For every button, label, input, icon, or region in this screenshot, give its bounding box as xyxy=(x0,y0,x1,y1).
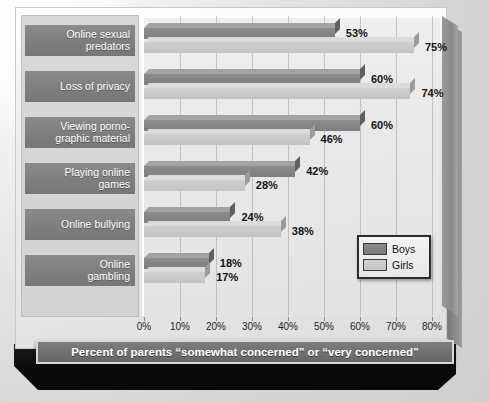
plot-top-highlight xyxy=(144,16,442,18)
bar-girls xyxy=(144,226,281,237)
bar-girls xyxy=(144,88,410,99)
bar-side-face xyxy=(360,64,365,80)
chart-legend: Boys Girls xyxy=(357,235,431,279)
x-axis-tick-label: 60% xyxy=(350,321,370,332)
chart-screenshot: Online sexualpredatorsLoss of privacyVie… xyxy=(0,0,489,402)
x-axis-tick-label: 0% xyxy=(137,321,151,332)
legend-entry-girls: Girls xyxy=(363,257,425,273)
chart-board: Online sexualpredatorsLoss of privacyVie… xyxy=(16,8,446,348)
category-label-viewing-pornographic-material: Viewing porno-graphic material xyxy=(25,117,135,148)
bar-side-face xyxy=(281,216,286,232)
bar-value-label: 17% xyxy=(216,271,238,283)
bar-front-face xyxy=(144,180,245,191)
x-axis-tick-label: 50% xyxy=(314,321,334,332)
bar-side-face xyxy=(335,18,340,34)
bar-value-label: 38% xyxy=(292,225,314,237)
x-axis-tick-label: 80% xyxy=(422,321,442,332)
x-axis: 0%10%20%30%40%50%60%70%80% xyxy=(142,317,454,333)
x-axis-tick-label: 30% xyxy=(242,321,262,332)
bar-side-face xyxy=(295,156,300,172)
bar-girls xyxy=(144,134,310,145)
bar-value-label: 75% xyxy=(425,41,447,53)
bar-side-face xyxy=(205,262,210,278)
category-label-playing-online-games: Playing onlinegames xyxy=(25,163,135,194)
category-label-column: Online sexualpredatorsLoss of privacyVie… xyxy=(22,16,138,316)
bar-front-face xyxy=(144,134,310,145)
bar-girls xyxy=(144,272,205,283)
category-label-online-gambling: Onlinegambling xyxy=(25,255,135,286)
bar-value-label: 42% xyxy=(306,165,328,177)
category-label-loss-of-privacy: Loss of privacy xyxy=(25,71,135,102)
bar-front-face xyxy=(144,88,410,99)
bar-front-face xyxy=(144,42,414,53)
bar-side-face xyxy=(414,32,419,48)
legend-entry-boys: Boys xyxy=(363,241,425,257)
category-label-online-bullying: Online bullying xyxy=(25,209,135,240)
bar-side-face xyxy=(230,202,235,218)
bar-side-face xyxy=(360,110,365,126)
bar-value-label: 74% xyxy=(421,87,443,99)
gridline xyxy=(432,16,433,316)
x-axis-tick-label: 70% xyxy=(386,321,406,332)
bar-girls xyxy=(144,42,414,53)
plot-back-wall-3d xyxy=(442,16,458,316)
bar-value-label: 60% xyxy=(371,119,393,131)
boys-swatch-icon xyxy=(363,243,387,255)
bar-value-label: 46% xyxy=(321,133,343,145)
bar-girls xyxy=(144,180,245,191)
bar-value-label: 18% xyxy=(220,257,242,269)
bar-front-face xyxy=(144,272,205,283)
bar-front-face xyxy=(144,226,281,237)
legend-label-boys: Boys xyxy=(392,243,415,255)
bar-side-face xyxy=(410,78,415,94)
legend-label-girls: Girls xyxy=(392,259,414,271)
category-label-online-sexual-predators: Online sexualpredators xyxy=(25,25,135,56)
x-axis-tick-label: 20% xyxy=(206,321,226,332)
girls-swatch-icon xyxy=(363,259,387,271)
x-axis-tick-label: 10% xyxy=(170,321,190,332)
chart-caption: Percent of parents “somewhat concerned” … xyxy=(36,340,454,364)
x-axis-tick-label: 40% xyxy=(278,321,298,332)
bar-value-label: 28% xyxy=(256,179,278,191)
